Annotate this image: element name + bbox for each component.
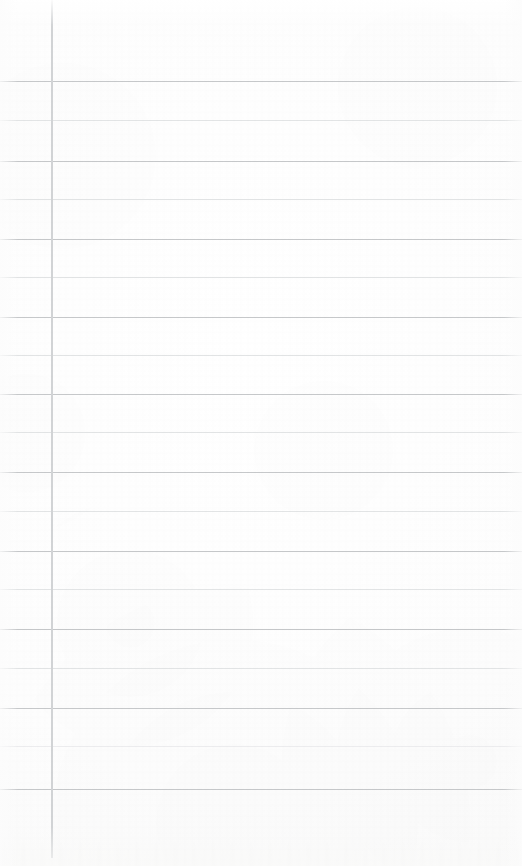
- writing-area-text: [54, 0, 55, 1]
- margin-column[interactable]: [0, 0, 52, 866]
- margin-column-label: [0, 0, 1, 1]
- writing-area[interactable]: [54, 0, 522, 866]
- scanned-page: [0, 0, 522, 866]
